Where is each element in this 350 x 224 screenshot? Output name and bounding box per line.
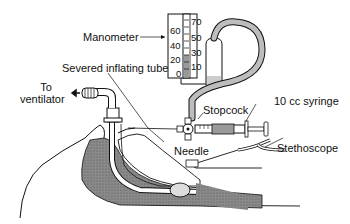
cuff [170, 183, 190, 197]
label-stethoscope: Stethoscope [277, 142, 338, 154]
label-severed-inflating-tube: Severed inflating tube [62, 62, 168, 74]
arrow-left-icon [72, 90, 80, 96]
label-stopcock: Stopcock [203, 104, 248, 116]
scale-left-40: 40 [170, 41, 181, 51]
label-10cc-syringe: 10 cc syringe [274, 95, 339, 107]
syringe [195, 121, 268, 137]
scale-right-10: 10 [191, 62, 202, 72]
label-to: To [36, 81, 56, 93]
scale-left-60: 60 [170, 26, 181, 36]
scale-right-70: 70 [191, 17, 202, 27]
scale-right-50: 50 [191, 33, 202, 43]
ventilator-hose [82, 88, 98, 98]
stopcock [177, 118, 193, 140]
label-needle: Needle [174, 145, 209, 157]
scale-left-20: 20 [170, 55, 181, 65]
scale-right-30: 30 [191, 48, 202, 58]
label-manometer: Manometer [83, 31, 139, 43]
needle [128, 128, 177, 129]
scale-left-0: 0 [176, 69, 181, 79]
label-ventilator: ventilator [20, 93, 65, 105]
